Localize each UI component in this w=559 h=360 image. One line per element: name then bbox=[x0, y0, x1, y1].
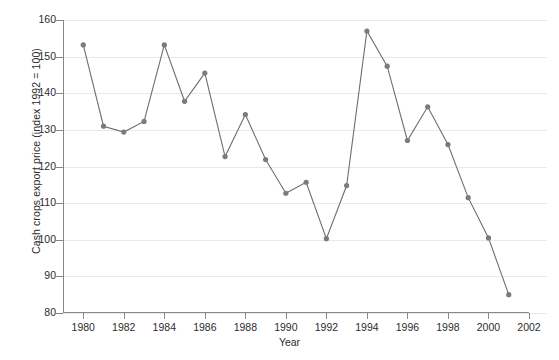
data-point-markers bbox=[81, 28, 512, 297]
data-point bbox=[283, 191, 288, 196]
chart-figure: Cash crops export price (index 1992 = 10… bbox=[0, 0, 559, 360]
data-point bbox=[445, 142, 450, 147]
data-point bbox=[243, 112, 248, 117]
data-point bbox=[405, 138, 410, 143]
data-point bbox=[162, 42, 167, 47]
data-point bbox=[324, 236, 329, 241]
data-point bbox=[466, 195, 471, 200]
x-axis-title-text: Year bbox=[279, 336, 300, 348]
x-axis-title: Year bbox=[0, 336, 559, 348]
data-point bbox=[344, 183, 349, 188]
data-point bbox=[121, 129, 126, 134]
data-point bbox=[263, 157, 268, 162]
data-point bbox=[425, 104, 430, 109]
data-point bbox=[304, 180, 309, 185]
data-point bbox=[385, 64, 390, 69]
series-line bbox=[83, 31, 508, 295]
data-point bbox=[222, 154, 227, 159]
data-point bbox=[81, 42, 86, 47]
data-point bbox=[364, 28, 369, 33]
data-point bbox=[506, 292, 511, 297]
data-point bbox=[486, 235, 491, 240]
data-point bbox=[182, 99, 187, 104]
data-point bbox=[141, 119, 146, 124]
data-point bbox=[101, 124, 106, 129]
data-point bbox=[202, 71, 207, 76]
series-layer bbox=[0, 0, 559, 360]
